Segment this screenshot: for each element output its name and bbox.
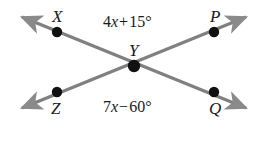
- point-dot-z: [52, 87, 62, 97]
- angle-top-degree-symbol: °: [145, 13, 151, 30]
- point-label-p: P: [210, 8, 220, 25]
- point-dot-q: [209, 87, 219, 97]
- point-dot-p: [209, 27, 219, 37]
- angle-bottom-constant: 60: [129, 98, 145, 115]
- angle-top-operator: +: [118, 13, 129, 30]
- angle-top-coefficient: 4: [103, 13, 111, 30]
- point-dot-y: [128, 60, 140, 72]
- point-label-x: X: [52, 8, 62, 25]
- angle-expression-top: 4x+15°: [103, 14, 152, 30]
- point-dot-x: [52, 27, 62, 37]
- angle-top-constant: 15: [129, 13, 145, 30]
- point-label-z: Z: [51, 100, 60, 117]
- angle-bottom-coefficient: 7: [103, 98, 111, 115]
- point-label-q: Q: [209, 100, 221, 117]
- angle-bottom-operator: −: [118, 98, 129, 115]
- angle-bottom-degree-symbol: °: [145, 98, 151, 115]
- point-label-y: Y: [129, 42, 138, 59]
- angle-expression-bottom: 7x−60°: [103, 99, 152, 115]
- geometry-figure: X P Y Z Q 4x+15° 7x−60°: [0, 0, 254, 163]
